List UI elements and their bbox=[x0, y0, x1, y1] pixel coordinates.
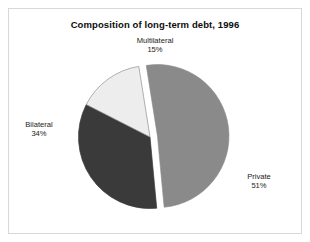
pie-label-multilateral-value: 15% bbox=[0, 45, 310, 54]
pie-label-bilateral-value: 34% bbox=[0, 129, 78, 138]
pie-label-private-value: 51% bbox=[228, 181, 290, 190]
chart-figure: Composition of long-term debt, 1996 Mult… bbox=[0, 0, 310, 242]
pie-label-private-name: Private bbox=[247, 172, 271, 181]
pie-slices bbox=[78, 65, 228, 209]
pie-label-bilateral-name: Bilateral bbox=[25, 120, 52, 129]
pie-label-bilateral: Bilateral 34% bbox=[0, 120, 78, 139]
pie-label-multilateral-name: Multilateral bbox=[137, 36, 174, 45]
pie-slice-private[interactable] bbox=[146, 65, 229, 208]
pie-label-multilateral: Multilateral 15% bbox=[0, 36, 310, 55]
pie-label-private: Private 51% bbox=[228, 172, 290, 191]
